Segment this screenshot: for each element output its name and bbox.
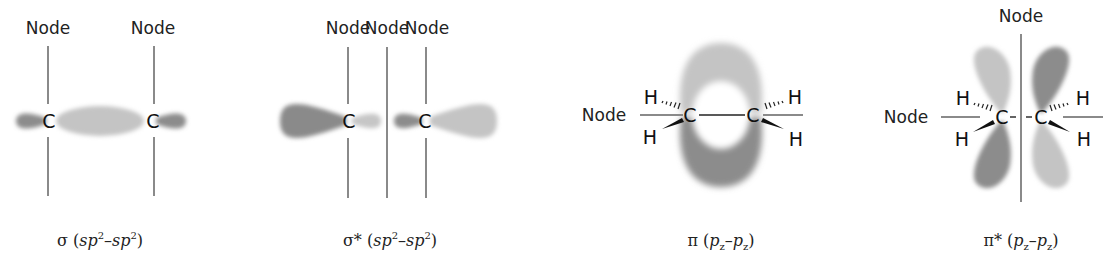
node-label: Node xyxy=(131,18,175,38)
hashed-wedge-bond xyxy=(974,103,992,111)
hydrogen-atom: H xyxy=(955,128,969,150)
caption: π (pz–pz) xyxy=(687,231,754,252)
node-label: Node xyxy=(26,18,70,38)
light-lobe xyxy=(1032,121,1069,188)
node-label: Node xyxy=(582,105,626,125)
light-lobe xyxy=(56,106,144,136)
light-lobe xyxy=(352,114,381,128)
hydrogen-atom: H xyxy=(1077,128,1091,150)
node-label: Node xyxy=(326,18,370,38)
light-lobe xyxy=(430,104,497,138)
dark-lobe xyxy=(280,104,346,138)
carbon-atom: C xyxy=(42,110,55,132)
carbon-atom: C xyxy=(995,106,1008,128)
hashed-wedge-bond xyxy=(662,101,680,109)
hydrogen-atom: H xyxy=(643,126,657,148)
caption: σ* (sp2–sp2) xyxy=(343,230,437,250)
pi-orbital-diagram: Node C C H H H H π (pz–pz) xyxy=(582,43,803,252)
dark-lobe xyxy=(1032,47,1069,113)
pi-star-orbital-diagram: Node Node C C H H H H π* (pz–pz) xyxy=(884,6,1103,252)
hydrogen-atom: H xyxy=(788,86,802,108)
node-label: Node xyxy=(365,18,409,38)
hydrogen-atom: H xyxy=(789,128,803,150)
sigma-orbital-diagram: Node Node C C σ (sp2–sp2) xyxy=(16,18,186,250)
caption: π* (pz–pz) xyxy=(983,231,1058,252)
hydrogen-atom: H xyxy=(644,86,658,108)
hydrogen-atom: H xyxy=(956,87,970,109)
hashed-wedge-bond xyxy=(765,101,783,109)
solid-wedge-bond xyxy=(973,120,995,132)
dark-lobe xyxy=(974,121,1011,188)
orbital-figure: Node Node C C σ (sp2–sp2) Node Node Node xyxy=(0,0,1106,272)
solid-wedge-bond xyxy=(1048,120,1070,132)
node-label: Node xyxy=(884,107,928,127)
hydrogen-atom: H xyxy=(1076,87,1090,109)
carbon-atom: C xyxy=(1034,106,1047,128)
orbital-lobes xyxy=(280,104,497,138)
node-label: Node xyxy=(999,6,1043,26)
hashed-wedge-bond xyxy=(1050,103,1068,111)
light-lobe xyxy=(974,47,1011,113)
carbon-atom: C xyxy=(146,110,159,132)
caption: σ (sp2–sp2) xyxy=(57,230,143,250)
carbon-atom: C xyxy=(418,110,431,132)
carbon-atom: C xyxy=(746,104,759,126)
node-label: Node xyxy=(405,18,449,38)
solid-wedge-bond xyxy=(761,118,784,129)
sigma-star-orbital-diagram: Node Node Node C C σ* (sp2–sp2) xyxy=(280,18,497,250)
carbon-atom: C xyxy=(683,104,696,126)
dark-lobe xyxy=(156,113,186,128)
carbon-atom: C xyxy=(342,110,355,132)
